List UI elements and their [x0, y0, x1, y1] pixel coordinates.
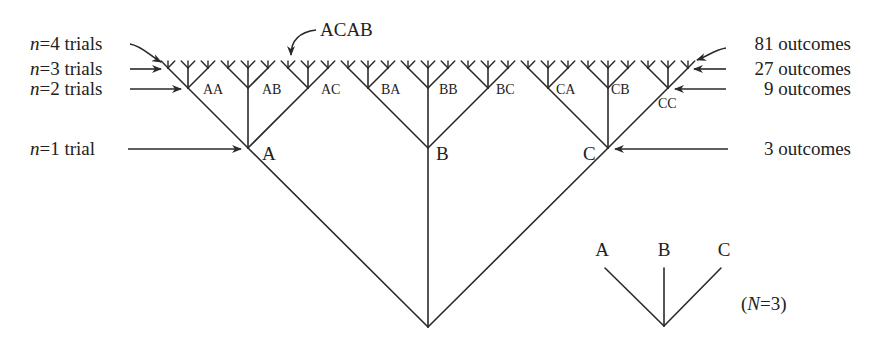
branch-cccc [688, 61, 695, 68]
branch-bba [408, 68, 428, 88]
trials-label-n1: n=1 trial [30, 138, 95, 159]
branch-abba [241, 61, 248, 68]
branch-cbac [588, 61, 595, 68]
node-label-bc: BC [496, 82, 515, 97]
branch-caca [561, 61, 568, 68]
branch-caba [541, 61, 548, 68]
branch-ccaa [641, 61, 648, 68]
right-annotations: 81 outcomes 27 outcomes 9 outcomes 3 out… [615, 33, 851, 159]
branch-acca [321, 61, 328, 68]
legend-label-c: C [718, 239, 731, 260]
branch-bacc [388, 61, 395, 68]
branch-bc [428, 88, 488, 148]
branch-acaa [281, 61, 288, 68]
branch-bbac [408, 61, 415, 68]
node-label-b: B [436, 143, 449, 164]
branch-cca [648, 68, 668, 88]
branch-caa [528, 68, 548, 88]
tree-canvas: A B C AA AB AC BA BB BC CA CB CC ACAB n=… [0, 0, 880, 346]
branch-bcac [468, 61, 475, 68]
branch-caac [528, 61, 535, 68]
legend-label-a: A [595, 239, 609, 260]
branch-abbc [248, 61, 255, 68]
branch-abca [261, 61, 268, 68]
branch-bcaa [461, 61, 468, 68]
branch-aaac [168, 61, 175, 68]
node-label-bb: BB [439, 82, 458, 97]
legend-label-b: B [658, 239, 671, 260]
node-label-ab: AB [262, 82, 281, 97]
branch-caaa [521, 61, 528, 68]
node-label-c: C [583, 143, 596, 164]
branch-abcc [268, 61, 275, 68]
branch-bca [468, 68, 488, 88]
trials-label-n3: n=3 trials [30, 58, 102, 79]
branch-abaa [221, 61, 228, 68]
branch-aba [228, 68, 248, 88]
branch-baba [361, 61, 368, 68]
branch-acbc [308, 61, 315, 68]
branch-ccc [668, 68, 688, 88]
branch-baca [381, 61, 388, 68]
branch-aaca [201, 61, 208, 68]
node-label-cb: CB [611, 82, 630, 97]
branch-ccac [648, 61, 655, 68]
node-label-ba: BA [381, 82, 401, 97]
outcomes-label-81: 81 outcomes [754, 33, 851, 54]
branch-bbcc [448, 61, 455, 68]
branch-bcbc [488, 61, 495, 68]
branch-aaba [181, 61, 188, 68]
example-leaf-annotation: ACAB [291, 19, 373, 55]
branch-ccba [661, 61, 668, 68]
branch-aaaa [161, 61, 168, 68]
branch-ccbc [668, 61, 675, 68]
single-trial-legend: A B C (N=3) [595, 239, 786, 326]
node-label-ac: AC [321, 82, 340, 97]
branch-aa [188, 88, 248, 148]
branch-aacc [208, 61, 215, 68]
branch-ac [248, 88, 308, 148]
branch-aaa [168, 68, 188, 88]
legend-branch-a [605, 268, 664, 326]
branch-aca [288, 68, 308, 88]
outcomes-arrow-81 [697, 48, 726, 60]
branch-ccca [681, 61, 688, 68]
branch-bbbc [428, 61, 435, 68]
branch-cacc [568, 61, 575, 68]
branch-abac [228, 61, 235, 68]
branch-baa [348, 68, 368, 88]
example-leaf-label: ACAB [320, 19, 373, 40]
branch-ca [548, 88, 608, 148]
example-leaf-arrow [291, 30, 316, 55]
branch-bcca [501, 61, 508, 68]
node-label-ca: CA [556, 82, 576, 97]
branch-ba [368, 88, 428, 148]
outcomes-label-27: 27 outcomes [754, 58, 851, 79]
probability-tree [161, 61, 695, 327]
branch-cbcc [628, 61, 635, 68]
branch-bbca [441, 61, 448, 68]
legend-caption: (N=3) [741, 293, 787, 315]
trials-label-n2: n=2 trials [30, 78, 102, 99]
branch-aabc [188, 61, 195, 68]
branch-a [248, 148, 428, 327]
node-label-a: A [262, 143, 276, 164]
outcomes-label-3: 3 outcomes [764, 138, 851, 159]
branch-cbbc [608, 61, 615, 68]
branch-bcba [481, 61, 488, 68]
branch-bbba [421, 61, 428, 68]
trials-label-n4: n=4 trials [30, 33, 102, 54]
branch-acac [288, 61, 295, 68]
branch-cba [588, 68, 608, 88]
branch-cbca [621, 61, 628, 68]
branch-babc [368, 61, 375, 68]
branch-accc [328, 61, 335, 68]
branch-baaa [341, 61, 348, 68]
node-label-cc: CC [658, 96, 677, 111]
branch-baac [348, 61, 355, 68]
outcomes-label-9: 9 outcomes [764, 78, 851, 99]
node-label-aa: AA [203, 82, 224, 97]
branch-cbaa [581, 61, 588, 68]
trials-arrow-n4 [130, 44, 161, 62]
branch-c [428, 148, 608, 327]
